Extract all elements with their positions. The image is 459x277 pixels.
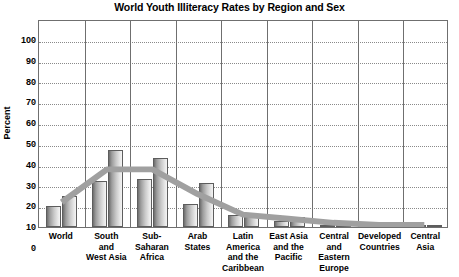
y-axis-tick-mark: [32, 206, 36, 207]
plot-area: [38, 20, 448, 228]
x-axis-label-line: States: [175, 242, 221, 253]
y-axis-tick-label: 60: [2, 118, 36, 128]
x-axis-label: East Asiaand thePacific: [266, 231, 312, 263]
x-axis-label-line: South: [84, 231, 130, 242]
x-axis-label: ArabStates: [175, 231, 221, 252]
y-axis-tick-mark: [32, 227, 36, 228]
chart-title: World Youth Illiteracy Rates by Region a…: [0, 1, 459, 13]
x-axis-label-line: West Asia: [84, 252, 130, 263]
x-axis-label: SouthandWest Asia: [84, 231, 130, 263]
y-axis-tick-mark: [32, 61, 36, 62]
x-axis-label-line: and: [311, 242, 357, 253]
y-axis-tick-label: 30: [2, 181, 36, 191]
x-axis-label-line: Countries: [357, 242, 403, 253]
x-axis-label-line: Saharan: [129, 242, 175, 253]
x-axis-label-line: Eastern: [311, 252, 357, 263]
trend-line-svg: [39, 21, 447, 227]
x-axis-label-line: and the: [220, 252, 266, 263]
x-axis-label-line: Central: [311, 231, 357, 242]
x-axis-label: DevelopedCountries: [357, 231, 403, 252]
y-axis-tick-mark: [32, 144, 36, 145]
x-axis-labels: WorldSouthandWest AsiaSub-SaharanAfricaA…: [38, 231, 448, 277]
x-axis-label-line: Pacific: [266, 252, 312, 263]
x-axis-label-line: and the: [266, 242, 312, 253]
x-axis-label-line: Sub-: [129, 231, 175, 242]
trend-line: [62, 169, 425, 225]
y-axis-tick-label: 90: [2, 56, 36, 66]
x-axis-label-line: Developed: [357, 231, 403, 242]
y-axis-tick-label: 80: [2, 77, 36, 87]
x-axis-label-line: East Asia: [266, 231, 312, 242]
y-axis-tick-label: 100: [2, 35, 36, 45]
x-axis-label-line: Central: [402, 231, 448, 242]
x-axis-label: CentralAsia: [402, 231, 448, 252]
x-axis-label-line: America: [220, 242, 266, 253]
chart-container: World Youth Illiteracy Rates by Region a…: [0, 0, 459, 277]
y-axis: Percent 1009080706050403020100: [0, 20, 36, 228]
x-axis-label: CentralandEasternEurope: [311, 231, 357, 273]
y-axis-tick-mark: [32, 123, 36, 124]
x-axis-label-line: Latin: [220, 231, 266, 242]
y-axis-tick-mark: [32, 248, 36, 249]
y-axis-tick-mark: [32, 186, 36, 187]
x-axis-label-line: Caribbean: [220, 263, 266, 274]
x-axis-label-line: Arab: [175, 231, 221, 242]
y-axis-tick-label: 0: [2, 243, 36, 253]
x-axis-label-line: Asia: [402, 242, 448, 253]
x-axis-label: Sub-SaharanAfrica: [129, 231, 175, 263]
trend-line-layer: [39, 21, 447, 227]
x-axis-label-line: Europe: [311, 263, 357, 274]
y-axis-tick-label: 10: [2, 222, 36, 232]
y-axis-tick-label: 40: [2, 160, 36, 170]
x-axis-label: LatinAmericaand theCaribbean: [220, 231, 266, 273]
x-axis-label-line: World: [38, 231, 84, 242]
y-axis-tick-mark: [32, 40, 36, 41]
y-axis-tick-label: 50: [2, 139, 36, 149]
x-axis-label-line: and: [84, 242, 130, 253]
y-axis-tick-label: 20: [2, 201, 36, 211]
y-axis-tick-mark: [32, 82, 36, 83]
x-axis-label: World: [38, 231, 84, 242]
y-axis-tick-mark: [32, 165, 36, 166]
y-axis-tick-mark: [32, 102, 36, 103]
y-axis-tick-label: 70: [2, 97, 36, 107]
x-axis-label-line: Africa: [129, 252, 175, 263]
